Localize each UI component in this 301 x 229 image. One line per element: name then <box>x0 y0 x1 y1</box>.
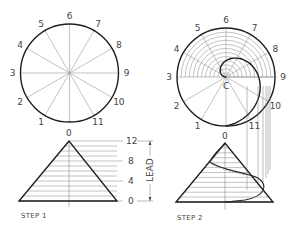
lead-label-8: 8 <box>128 156 134 166</box>
division-label-1: 1 <box>195 121 201 131</box>
step2-projection-lines <box>226 77 277 190</box>
division-label-5: 5 <box>38 19 44 29</box>
division-ray <box>70 73 95 115</box>
step2-center-label: C <box>223 81 229 91</box>
division-label-7: 7 <box>95 19 101 29</box>
division-label-11: 11 <box>249 121 260 131</box>
division-label-3: 3 <box>10 68 16 78</box>
division-label-8: 8 <box>272 44 278 54</box>
step1-group: 1234567891011 0 12 8 4 0 LEAD STEP 1 <box>10 11 155 220</box>
lead-label-0: 0 <box>128 196 134 206</box>
division-ray <box>184 77 226 102</box>
step1-lead-division-lines <box>19 141 123 201</box>
division-label-2: 2 <box>174 101 180 111</box>
division-label-1: 1 <box>38 117 44 127</box>
division-label-6: 6 <box>67 11 73 21</box>
division-label-6: 6 <box>223 15 229 25</box>
division-label-9: 9 <box>280 72 286 82</box>
division-label-9: 9 <box>124 68 130 78</box>
division-ray <box>70 73 112 98</box>
lead-label-4: 4 <box>128 176 134 186</box>
lead-label-12: 12 <box>126 136 137 146</box>
division-label-4: 4 <box>17 40 23 50</box>
step2-group: 1234567891011 C 0 STEP 2 <box>166 15 286 222</box>
division-ray <box>27 73 69 98</box>
division-ray <box>27 49 69 74</box>
step1-caption: STEP 1 <box>21 212 47 220</box>
division-ray <box>70 49 112 74</box>
step2-apex-label: 0 <box>222 131 228 141</box>
division-label-10: 10 <box>270 101 282 111</box>
division-ray <box>70 31 95 73</box>
division-label-3: 3 <box>166 72 172 82</box>
step2-caption: STEP 2 <box>177 214 203 222</box>
step2-lead-division-lines <box>176 148 273 202</box>
step1-apex-label: 0 <box>66 128 72 138</box>
division-label-2: 2 <box>17 97 23 107</box>
lead-dimension-label: LEAD <box>145 158 155 182</box>
division-label-7: 7 <box>252 23 258 33</box>
division-label-10: 10 <box>113 97 125 107</box>
division-ray <box>45 31 70 73</box>
step1-lead-scale: 12 8 4 0 LEAD <box>126 136 155 206</box>
division-label-5: 5 <box>195 23 201 33</box>
division-ray <box>45 73 70 115</box>
division-label-11: 11 <box>92 117 103 127</box>
conical-helix-construction-diagram: 1234567891011 0 12 8 4 0 LEAD STEP 1 123… <box>0 0 301 229</box>
division-label-4: 4 <box>174 44 180 54</box>
division-label-8: 8 <box>116 40 122 50</box>
